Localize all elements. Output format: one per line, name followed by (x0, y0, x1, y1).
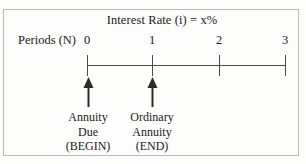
interest-rate-title: Interest Rate (i) = x% (0, 14, 306, 27)
period-tick-label-2: 2 (216, 34, 222, 47)
annuity-timeline-figure: Interest Rate (i) = x% Periods (N) 0 1 2… (0, 0, 306, 164)
annuity-due-arrow-icon (83, 77, 94, 107)
timeline-axis-line (87, 65, 285, 66)
timeline-tick-0 (87, 55, 88, 76)
ordinary-annuity-arrow-icon (147, 77, 158, 107)
period-tick-label-3: 3 (282, 34, 288, 47)
period-tick-label-0: 0 (84, 34, 90, 47)
annuity-due-caption-line-3: (BEGIN) (66, 139, 111, 154)
ordinary-annuity-caption-line-1: Ordinary (130, 110, 173, 125)
annuity-due-caption-line-2: Due (66, 125, 111, 140)
timeline-tick-3 (285, 55, 286, 76)
arrow-shaft (151, 86, 153, 107)
timeline-tick-1 (152, 55, 153, 76)
annuity-due-caption: Annuity Due (BEGIN) (66, 110, 111, 154)
timeline-tick-2 (219, 55, 220, 76)
period-tick-label-1: 1 (149, 34, 155, 47)
arrow-shaft (87, 86, 89, 107)
ordinary-annuity-caption: Ordinary Annuity (END) (130, 110, 173, 154)
ordinary-annuity-caption-line-2: Annuity (130, 125, 173, 140)
ordinary-annuity-caption-line-3: (END) (130, 139, 173, 154)
annuity-due-caption-line-1: Annuity (66, 110, 111, 125)
interest-rate-title-text: Interest Rate (i) = x% (107, 13, 218, 27)
periods-axis-label: Periods (N) (18, 34, 76, 47)
